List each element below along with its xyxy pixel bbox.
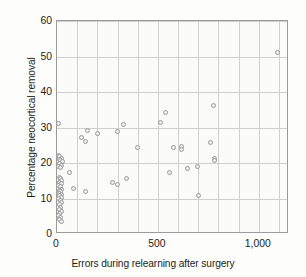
data-point <box>115 182 120 187</box>
gridline-horizontal <box>57 21 287 22</box>
x-tick-label: 0 <box>53 238 59 249</box>
data-point <box>121 122 126 127</box>
data-point <box>124 176 129 181</box>
data-point <box>196 193 201 198</box>
data-point <box>208 140 213 145</box>
gridline-horizontal <box>57 57 287 58</box>
data-point <box>179 147 184 152</box>
x-tick-label: 500 <box>148 238 165 249</box>
gridline-vertical <box>77 21 78 232</box>
data-point <box>56 121 61 126</box>
data-point <box>163 110 168 115</box>
plot-area <box>56 20 288 233</box>
gridline-vertical <box>158 21 159 232</box>
gridline-vertical <box>198 21 199 232</box>
gridline-vertical <box>178 21 179 232</box>
data-point <box>67 170 72 175</box>
data-point <box>83 189 88 194</box>
data-point <box>95 131 100 136</box>
gridline-vertical <box>259 21 260 232</box>
data-point <box>71 186 76 191</box>
data-point <box>135 145 140 150</box>
data-point <box>85 128 90 133</box>
data-point <box>167 170 172 175</box>
gridline-horizontal <box>57 92 287 93</box>
data-point <box>211 103 216 108</box>
gridline-vertical <box>218 21 219 232</box>
data-point <box>171 145 176 150</box>
gridline-horizontal <box>57 128 287 129</box>
gridline-horizontal <box>57 199 287 200</box>
data-point <box>58 165 63 170</box>
data-point <box>185 166 190 171</box>
gridline-vertical <box>138 21 139 232</box>
data-point <box>115 129 120 134</box>
gridline-vertical <box>97 21 98 232</box>
data-point <box>83 139 88 144</box>
gridline-horizontal <box>57 163 287 164</box>
x-tick-label: 1,000 <box>245 238 271 249</box>
data-point <box>59 219 64 224</box>
scatter-chart-figure: Percentage neocortical removal Errors du… <box>0 0 306 277</box>
data-point <box>158 120 163 125</box>
gridline-vertical <box>118 21 119 232</box>
gridline-vertical <box>239 21 240 232</box>
